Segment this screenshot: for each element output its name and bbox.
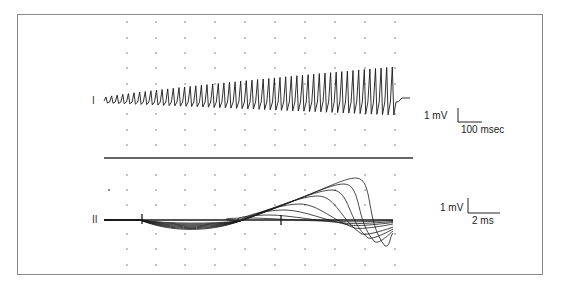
trace-panel-II <box>104 178 393 246</box>
trace-panel-I <box>104 67 410 115</box>
figure-canvas <box>0 0 561 290</box>
panel-label-II: II <box>92 214 98 225</box>
scale-II-horizontal-label: 2 ms <box>472 215 494 226</box>
scale-bar-II <box>468 198 500 213</box>
scale-II-vertical-label: 1 mV <box>440 202 463 213</box>
scale-I-vertical-label: 1 mV <box>424 110 447 121</box>
panel-label-I: I <box>92 95 95 106</box>
grid-dots-top <box>126 21 395 145</box>
scale-bar-I <box>458 108 482 122</box>
scale-I-horizontal-label: 100 msec <box>461 124 504 135</box>
